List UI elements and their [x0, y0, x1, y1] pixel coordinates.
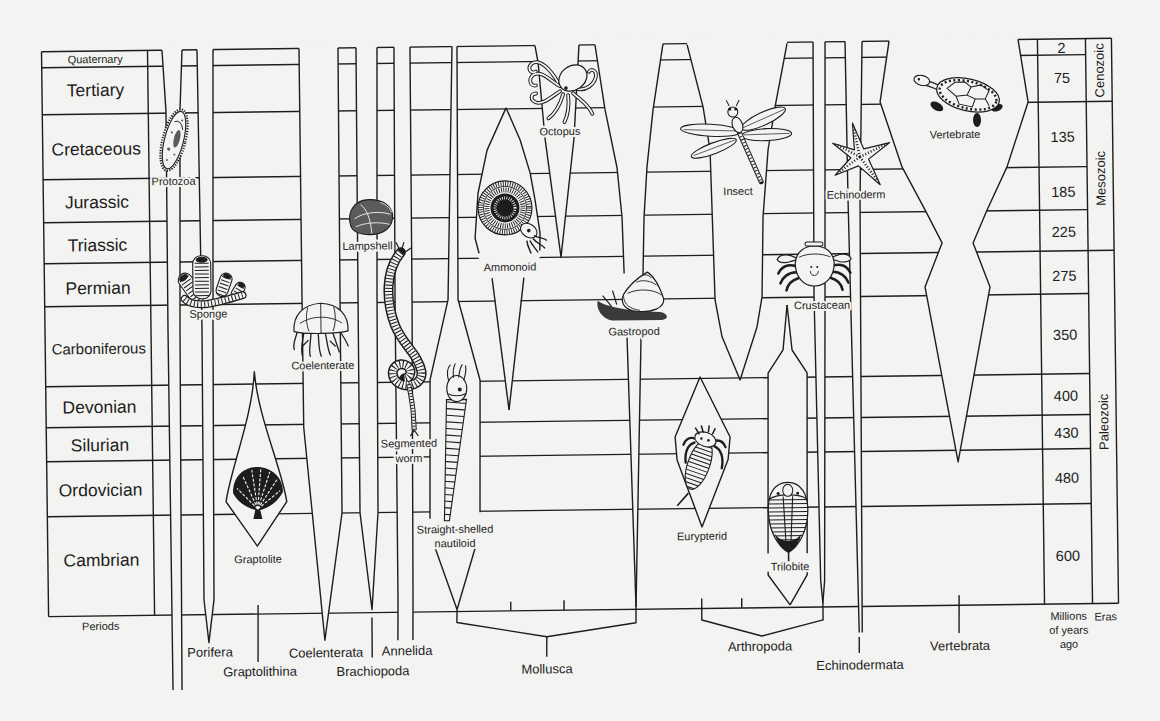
- organism-label-lampshell: Lampshell: [342, 239, 392, 252]
- mya-value: 135: [1050, 129, 1074, 145]
- organism-label-echinoderm: Echinoderm: [827, 188, 886, 201]
- organism-label-graptolite: Graptolite: [234, 553, 282, 566]
- era-label: Cenozoic: [1091, 43, 1107, 98]
- periods-header: Periods: [82, 620, 120, 632]
- phylum-label-brachiopoda: Brachiopoda: [336, 663, 410, 679]
- mya-value: 400: [1054, 388, 1078, 404]
- era-label: Mesozoic: [1093, 150, 1109, 206]
- mya-value: 185: [1051, 184, 1075, 200]
- vertebrata-stem: [959, 595, 960, 633]
- mollusca-stem: [546, 637, 547, 657]
- mya-value: 2: [1057, 40, 1065, 56]
- organism-label-sponge: Sponge: [189, 307, 227, 319]
- period-label: Cambrian: [63, 550, 139, 571]
- mya-value: 225: [1052, 224, 1076, 240]
- mya-value: 275: [1052, 268, 1076, 284]
- period-label: Tertiary: [67, 80, 125, 101]
- phylum-label-porifera: Porifera: [187, 644, 233, 660]
- organism-label-coelenterate: Coelenterate: [291, 359, 354, 372]
- graptolithina-pointer: [257, 605, 258, 662]
- period-label: Cretaceous: [51, 138, 141, 159]
- organism-label-gastropod: Gastropod: [608, 325, 660, 338]
- period-label: Triassic: [67, 235, 127, 256]
- eras-header: Eras: [1094, 610, 1117, 622]
- phylum-label-annelida: Annelida: [382, 643, 434, 659]
- mya-value: 430: [1054, 425, 1078, 441]
- period-label: Quaternary: [68, 53, 124, 66]
- period-label: Silurian: [71, 435, 130, 456]
- organism-label-nautiloid: nautiloid: [434, 537, 475, 550]
- period-label: Devonian: [62, 397, 136, 418]
- phylum-label-coelenterata: Coelenterata: [289, 645, 364, 661]
- mya-value: 480: [1055, 470, 1079, 486]
- organism-label-segmented-worm: Segmented: [381, 437, 437, 450]
- organism-label-eurypterid: Eurypterid: [677, 530, 727, 543]
- period-label: Jurassic: [65, 192, 130, 213]
- brachiopoda-pointer: [372, 618, 373, 658]
- period-label: Ordovician: [59, 479, 143, 500]
- mya-header: Millions: [1050, 610, 1087, 622]
- era-label: Paleozoic: [1096, 393, 1112, 450]
- organism-label-trilobite: Trilobite: [771, 560, 810, 572]
- phylum-label-echinodermata: Echinodermata: [816, 657, 904, 673]
- phylum-label-arthropoda: Arthropoda: [728, 638, 793, 654]
- organism-label-protozoa: Protozoa: [151, 175, 196, 188]
- period-label: Permian: [65, 278, 130, 299]
- mya-value: 75: [1054, 70, 1070, 86]
- organism-label-vertebrate: Vertebrate: [930, 128, 981, 141]
- organism-label-segmented-worm: worm: [394, 452, 422, 464]
- organism-label-nautiloid: Straight-shelled: [417, 523, 494, 536]
- organism-label-ammonoid: Ammonoid: [484, 261, 537, 274]
- phylum-label-graptolithina: Graptolithina: [223, 664, 298, 680]
- organism-label-crustacean: Crustacean: [794, 299, 850, 312]
- phylum-label-vertebrata: Vertebrata: [930, 638, 991, 654]
- mya-value: 600: [1056, 548, 1080, 564]
- lampshell-illustration: [349, 199, 392, 235]
- geologic-time-spindle-diagram: Quaternary Tertiary Cretaceous Jurassic …: [0, 0, 1160, 721]
- period-label: Carboniferous: [52, 339, 146, 357]
- mya-header: ago: [1060, 638, 1079, 650]
- phylum-label-mollusca: Mollusca: [521, 661, 573, 677]
- mya-value: 350: [1053, 327, 1077, 343]
- organism-label-octopus: Octopus: [539, 125, 581, 138]
- mya-header: of years: [1049, 624, 1089, 636]
- organism-label-insect: Insect: [723, 185, 753, 197]
